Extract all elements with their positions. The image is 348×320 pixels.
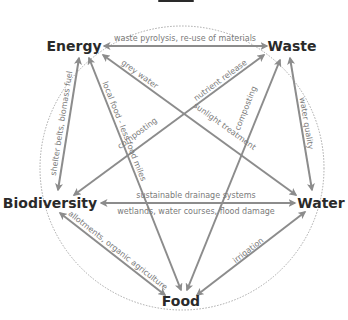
- edge-label: waste pyrolysis, re-use of materials: [114, 34, 256, 43]
- node-food: Food: [162, 293, 200, 309]
- edge-label: nutrient release: [192, 58, 249, 103]
- edge-label: irrigation: [231, 236, 265, 265]
- edge-label: wetlands, water courses, flood damage: [117, 207, 275, 216]
- edge-label: sustainable drainage systems: [136, 191, 256, 200]
- edge-label: grey water: [120, 58, 161, 91]
- node-waste: Waste: [268, 38, 317, 54]
- interconnection-diagram: waste pyrolysis, re-use of materials gre…: [0, 0, 348, 320]
- edge-label: shelter belts, biomass fuel: [49, 70, 74, 176]
- edges: [58, 46, 312, 295]
- dashed-ring: [40, 26, 324, 310]
- edge-energy-water: [103, 55, 296, 195]
- node-biodiversity: Biodiversity: [3, 195, 97, 211]
- edge-biodiversity-food: [60, 213, 165, 295]
- node-energy: Energy: [46, 38, 101, 54]
- title-fragment: [158, 0, 194, 2]
- node-water: Water: [297, 195, 345, 211]
